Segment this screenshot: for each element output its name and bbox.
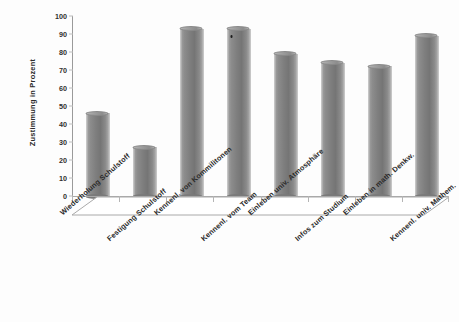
bar-slot (120, 147, 167, 196)
bar-top-ellipse (132, 145, 155, 150)
bar (369, 66, 390, 196)
x-tick-mark (355, 196, 356, 202)
bar-body (322, 63, 345, 196)
bar-body (275, 54, 298, 196)
bar (227, 29, 248, 196)
bar-slot (73, 113, 120, 196)
scan-artifact-speck (230, 35, 233, 38)
bar-top-ellipse (85, 111, 108, 116)
y-tick-label: 60 (59, 84, 67, 93)
bar-top-ellipse (179, 26, 202, 31)
bar-series (72, 16, 449, 196)
plot-area: 1009080706050403020100 (72, 16, 449, 196)
bar-slot (403, 36, 450, 196)
x-tick-mark (72, 196, 73, 202)
bar-slot (167, 29, 214, 196)
y-tick-label: 90 (59, 30, 67, 39)
bar-top-ellipse (321, 60, 344, 65)
y-tick-label: 40 (59, 120, 67, 129)
y-axis-title: Zustimmung in Prozent (28, 38, 37, 168)
x-tick-mark (119, 196, 120, 202)
x-tick-mark (166, 196, 167, 202)
bar (275, 54, 296, 196)
y-tick-label: 100 (55, 12, 67, 21)
bar (86, 113, 107, 196)
y-tick-label: 80 (59, 48, 67, 57)
bar-body (86, 113, 109, 196)
x-tick-mark (213, 196, 214, 202)
bar (133, 147, 154, 196)
bar-slot (356, 66, 403, 196)
bar-body (416, 36, 439, 196)
bar-top-ellipse (226, 26, 249, 31)
bar-slot (309, 63, 356, 196)
bar-body (369, 66, 392, 196)
bar-body (133, 147, 156, 196)
bar-top-ellipse (368, 64, 391, 69)
x-tick-mark (308, 196, 309, 202)
y-tick-label: 10 (59, 174, 67, 183)
y-tick-label: 50 (59, 102, 67, 111)
bar-slot (214, 29, 261, 196)
y-tick-label: 20 (59, 156, 67, 165)
y-tick-label: 0 (63, 192, 67, 201)
bar-body (227, 29, 250, 196)
bar (416, 36, 437, 196)
x-tick-mark (448, 196, 449, 202)
x-tick-mark (261, 196, 262, 202)
bar-slot (262, 54, 309, 196)
y-tick-label: 30 (59, 138, 67, 147)
bar-top-ellipse (274, 51, 297, 56)
x-axis-ticks (72, 196, 449, 203)
x-tick-mark (402, 196, 403, 202)
bar (322, 63, 343, 196)
bar (180, 29, 201, 196)
y-tick-label: 70 (59, 66, 67, 75)
bar-body (180, 29, 203, 196)
bar-chart: Zustimmung in Prozent 100908070605040302… (0, 0, 459, 322)
bar-top-ellipse (415, 33, 438, 38)
